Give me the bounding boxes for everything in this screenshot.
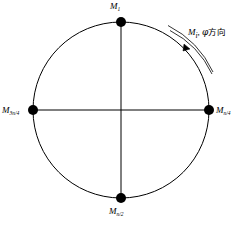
- node-dot-bottom: [116, 193, 126, 203]
- node-dot-right: [204, 105, 214, 115]
- annotation-direction-text: 方向: [208, 27, 226, 37]
- node-label-top-subscript: 1: [118, 6, 121, 12]
- node-label-left-symbol: M: [2, 105, 10, 115]
- node-label-bottom-subscript: n/2: [117, 211, 124, 217]
- node-label-bottom-symbol: M: [109, 206, 117, 216]
- node-label-right-subscript: n/4: [224, 110, 231, 116]
- node-label-right: Mn/4: [216, 106, 231, 115]
- node-label-right-symbol: M: [216, 105, 224, 115]
- figure-container: M1 Mn/4 Mn/2 M3n/4 Mi, φ方向: [0, 0, 239, 226]
- node-label-left: M3n/4: [2, 106, 19, 115]
- node-dot-top: [116, 17, 126, 27]
- node-label-top: M1: [110, 2, 120, 11]
- node-dot-left: [28, 105, 38, 115]
- rotation-direction-annotation: Mi, φ方向: [188, 28, 226, 39]
- node-label-bottom: Mn/2: [109, 207, 124, 216]
- node-label-left-subscript: 3n/4: [10, 110, 20, 116]
- node-label-top-symbol: M: [110, 1, 118, 11]
- annotation-symbol: M: [188, 27, 196, 37]
- rotation-arrowhead: [183, 44, 190, 51]
